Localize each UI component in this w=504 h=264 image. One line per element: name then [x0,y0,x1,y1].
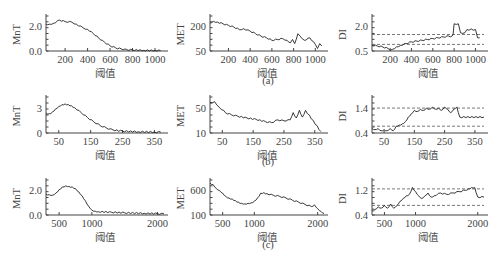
x-tick-label: 250 [437,136,453,147]
y-axis-label: DI [337,110,348,122]
data-series-line [210,21,322,48]
y-tick-label: 0.0 [29,46,42,57]
x-tick-label: 500 [51,218,67,229]
data-series-line [46,20,161,51]
axes [372,95,488,133]
x-tick-label: 350 [147,136,163,147]
x-tick-label: 150 [83,136,99,147]
x-tick-label: 1000 [244,218,265,229]
x-tick-label: 400 [404,54,420,65]
x-axis-label: 阈值 [418,67,439,79]
x-tick-label: 200 [221,54,237,65]
data-series-line [372,107,484,131]
x-tick-label: 800 [286,54,302,65]
y-tick-label: 100 [190,210,206,221]
axes [46,14,168,51]
data-series-line [210,102,321,132]
axes [210,14,328,51]
y-tick-label: 0.4 [355,128,369,139]
x-tick-label: 1000 [465,54,486,65]
x-tick-label: 400 [242,54,258,65]
chart-b-mnt: 5015025035003MnT阈值 [11,95,168,161]
data-series-line [46,104,161,133]
axes [46,95,168,133]
x-tick-label: 2000 [307,218,328,229]
x-tick-label: 350 [467,136,483,147]
x-tick-label: 600 [102,54,118,65]
x-tick-label: 250 [115,136,131,147]
y-axis-label: MET [175,187,186,210]
y-axis-label: DI [337,28,348,40]
x-axis-label: 阈值 [95,149,116,161]
panel-caption: (a) [262,75,274,87]
y-tick-label: 0.5 [355,46,368,57]
y-tick-label: 3 [37,103,42,114]
data-series-line [372,24,480,50]
y-tick-label: 200 [190,21,206,32]
x-axis-label: 阈值 [95,67,116,79]
panel-a: 20040060080010000.02.0MnT阈值2004006008001… [11,14,488,87]
panel-c: 500100020000.02.0MnT阈值50010002000100600M… [11,178,488,251]
axes [372,14,488,51]
y-axis-label: MET [175,23,186,46]
data-series-line [372,188,484,211]
y-tick-label: 0 [37,128,42,139]
y-tick-label: 0.4 [355,210,369,221]
chart-c-di: 500100020000.41.2DI阈值 [337,178,488,243]
y-axis-label: MnT [11,187,22,209]
panel-caption: (b) [262,156,275,168]
x-tick-label: 200 [57,54,73,65]
chart-a-mnt: 20040060080010000.02.0MnT阈值 [11,14,168,79]
data-series-line [46,186,164,215]
chart-a-di: 20040060080010000.52.0DI阈值 [337,14,488,79]
x-axis-label: 阈值 [418,149,439,161]
axes [210,178,328,215]
x-tick-label: 200 [382,54,398,65]
y-tick-label: 2.0 [29,21,42,32]
panel-b: 5015025035003MnT阈值501502503501050MET阈值50… [11,95,488,168]
panel-caption: (c) [262,239,274,251]
x-tick-label: 600 [264,54,280,65]
chart-c-mnt: 500100020000.02.0MnT阈值 [11,178,168,243]
data-series-line [210,183,324,213]
x-tick-label: 500 [377,218,393,229]
y-tick-label: 1.4 [355,103,369,114]
x-tick-label: 400 [80,54,96,65]
y-tick-label: 2.0 [29,185,42,196]
x-axis-label: 阈值 [95,231,116,243]
x-tick-label: 50 [379,136,390,147]
y-axis-label: DI [337,192,348,204]
x-tick-label: 350 [307,136,323,147]
y-tick-label: 0.0 [29,210,42,221]
x-tick-label: 2000 [147,218,168,229]
x-tick-label: 2000 [467,218,488,229]
x-tick-label: 50 [217,136,228,147]
x-tick-label: 600 [425,54,441,65]
x-tick-label: 800 [125,54,141,65]
y-tick-label: 1.2 [355,185,368,196]
y-tick-label: 50 [196,46,207,57]
x-tick-label: 1000 [81,218,102,229]
figure-grid: 20040060080010000.02.0MnT阈值2004006008001… [0,0,504,264]
chart-b-di: 501502503500.41.4DI阈值 [337,95,488,161]
x-tick-label: 1000 [405,218,426,229]
chart-c-met: 50010002000100600MET阈值 [175,178,328,243]
x-tick-label: 250 [276,136,292,147]
x-tick-label: 150 [245,136,261,147]
chart-a-met: 200400600800100050200MET阈值 [175,14,328,79]
chart-b-met: 501502503501050MET阈值 [175,95,328,161]
x-tick-label: 150 [407,136,423,147]
x-tick-label: 800 [446,54,462,65]
y-tick-label: 2.0 [355,21,368,32]
y-axis-label: MnT [11,105,22,127]
y-tick-label: 10 [196,128,207,139]
x-tick-label: 500 [215,218,231,229]
x-tick-label: 1000 [145,54,166,65]
y-tick-label: 50 [196,103,207,114]
y-axis-label: MET [175,104,186,127]
x-tick-label: 1000 [305,54,326,65]
x-axis-label: 阈值 [418,231,439,243]
x-tick-label: 50 [54,136,65,147]
axes [46,178,168,215]
y-axis-label: MnT [11,23,22,45]
